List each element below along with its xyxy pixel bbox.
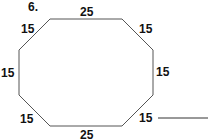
side-label-bottom-left: 15	[20, 112, 34, 126]
problem-number: 6.	[28, 0, 38, 14]
side-label-left: 15	[1, 66, 15, 80]
side-label-top: 25	[80, 5, 94, 19]
octagon-diagram: 6. 25 15 15 15 25 15 15 15	[0, 0, 208, 140]
side-label-right: 15	[156, 65, 170, 79]
side-label-top-left: 15	[21, 22, 35, 36]
octagon-shape	[19, 19, 153, 126]
side-label-bottom: 25	[80, 128, 94, 140]
side-label-top-right: 15	[139, 22, 153, 36]
side-label-bottom-right: 15	[139, 111, 153, 125]
